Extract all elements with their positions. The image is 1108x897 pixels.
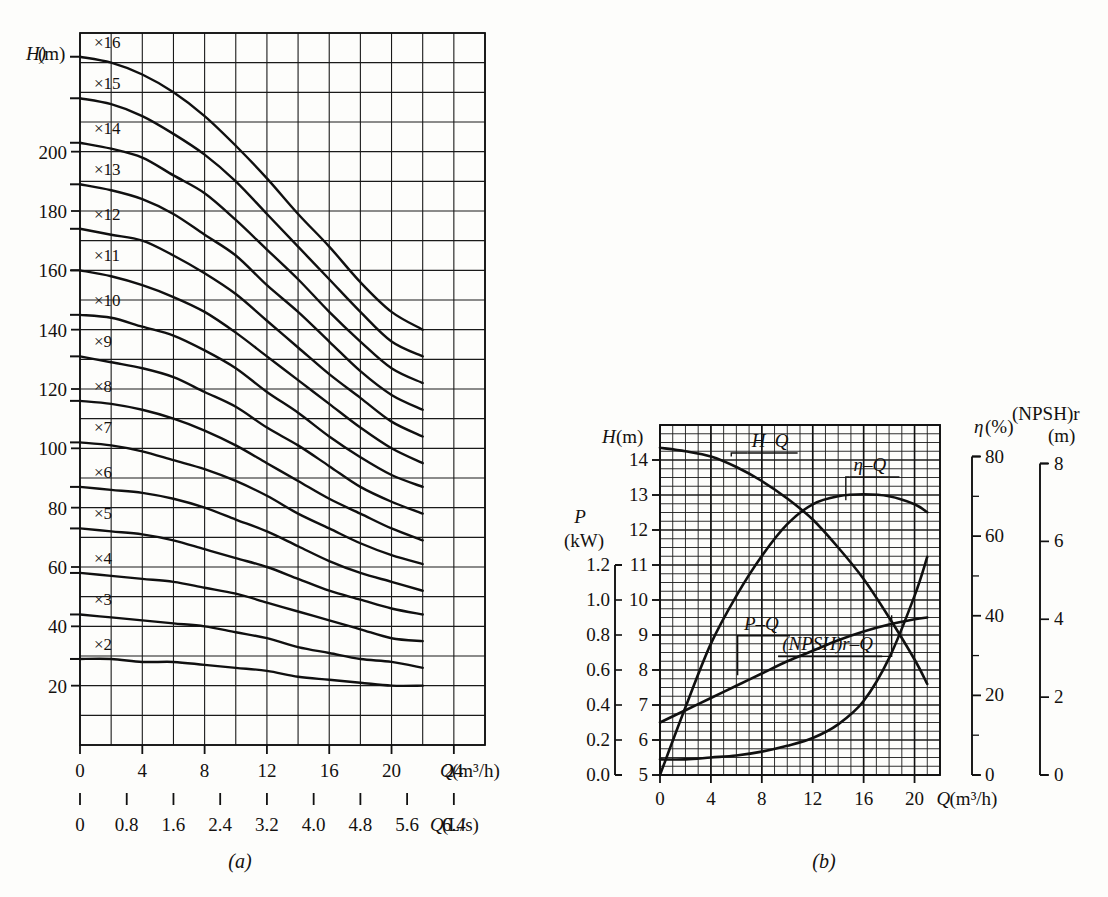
chart-b-npshr-tick-label: 0 [1054, 764, 1064, 785]
chart-b-npshr-tick-label: 2 [1054, 686, 1064, 707]
chart-b-npshr-tick-label: 8 [1054, 453, 1064, 474]
chart-a-xtick-label-secondary: 5.6 [395, 814, 419, 835]
chart-a-xtick-label: 12 [257, 760, 276, 781]
chart-a-x-axis: 04812162024 [75, 745, 464, 781]
chart-a-ytick-label: 120 [39, 379, 68, 400]
chart-b-p-tick-label: 0.8 [586, 624, 610, 645]
chart-b-npshr-axis: 02468 [1040, 453, 1064, 786]
chart-b-xtick-label: 16 [854, 788, 873, 809]
chart-b-xtick-label: 8 [757, 788, 767, 809]
chart-b-figure: 567891011121314H(m)0.00.20.40.60.81.01.2… [540, 0, 1108, 897]
chart-a-xtick-label-secondary: 0.8 [115, 814, 139, 835]
chart-b-etaq-annotation-leader [846, 477, 850, 500]
chart-b-h-tick-label: 9 [639, 624, 649, 645]
chart-a-ytick-label: 180 [39, 201, 68, 222]
chart-b-p-tick-label: 0.4 [586, 694, 610, 715]
chart-a-curve [80, 184, 423, 409]
chart-a-ytick-label: 160 [39, 260, 68, 281]
chart-a-curve [80, 401, 423, 540]
chart-b-p-tick-label: 0.0 [586, 764, 610, 785]
chart-a-curve [80, 659, 423, 686]
chart-a-curves [70, 57, 423, 686]
chart-b-h-axis: 567891011121314 [629, 449, 660, 785]
chart-b-xtick-label: 20 [905, 788, 924, 809]
chart-b-eta-tick-label: 80 [985, 446, 1004, 467]
chart-a-svg: 20406080100120140160180200H)(m)048121620… [0, 0, 540, 897]
chart-a-stage-label: ×3 [94, 590, 112, 609]
chart-b-npshrq-annotation-label: (NPSH)r–Q [782, 633, 873, 655]
chart-b-h-tick-label: 7 [639, 694, 649, 715]
chart-a-curve [80, 98, 423, 356]
chart-a-xtick-label: 0 [75, 760, 85, 781]
chart-b-h-tick-label: 5 [639, 764, 649, 785]
chart-b-h-axis-unit: (m) [616, 426, 643, 448]
chart-a-xtick-label: 8 [200, 760, 210, 781]
chart-a-xtick-label-secondary: 3.2 [255, 814, 279, 835]
chart-a-ytick-label: 40 [48, 616, 67, 637]
chart-b-annotations: H–Qη–QP–Q(NPSH)r–Q [731, 430, 899, 675]
chart-a-stage-label: ×9 [94, 332, 112, 351]
chart-a-ytick-label: 100 [39, 438, 68, 459]
chart-b-svg: 567891011121314H(m)0.00.20.40.60.81.01.2… [540, 0, 1108, 897]
chart-a-xtick-label-secondary: 4.0 [302, 814, 326, 835]
chart-a-curve [80, 143, 423, 383]
chart-a-stage-label: ×14 [94, 119, 121, 138]
chart-a-ylabel-unit: (m) [38, 43, 65, 65]
chart-a-curve [80, 57, 423, 330]
chart-b-eta-tick-label: 40 [985, 605, 1004, 626]
chart-a-xtick-label-secondary: 4.8 [349, 814, 373, 835]
chart-b-xlabel-unit: (m³/h) [950, 788, 998, 810]
chart-b-p-axis-label: P [573, 506, 586, 527]
chart-a-curve [80, 442, 423, 564]
chart-b-eta-axis: 020406080 [972, 446, 1004, 786]
chart-a-curve [80, 487, 423, 591]
chart-a-ytick-label: 200 [39, 142, 68, 163]
chart-b-p-tick-label: 0.6 [586, 659, 610, 680]
chart-b-pq-annotation-leader [738, 636, 740, 676]
chart-b-eta-axis-unit: (%) [985, 416, 1013, 438]
chart-a-stage-label: ×7 [94, 418, 113, 437]
chart-b-eta-tick-label: 60 [985, 525, 1004, 546]
chart-b-h-tick-label: 6 [639, 729, 649, 750]
chart-b-h-tick-label: 8 [639, 659, 649, 680]
chart-b-eta-axis-label: η [974, 416, 983, 437]
chart-b-npshr-tick-label: 4 [1054, 608, 1064, 629]
chart-a-stage-label: ×10 [94, 291, 121, 310]
chart-a-stage-label: ×15 [94, 74, 121, 93]
chart-a-stage-label: ×8 [94, 377, 112, 396]
chart-a-y-axis: 20406080100120140160180200 [39, 142, 81, 697]
chart-a-ytick-label: 60 [48, 557, 67, 578]
chart-a-curve [80, 528, 423, 614]
chart-a-stage-label: ×12 [94, 205, 121, 224]
chart-a-curve [80, 315, 423, 487]
chart-a-stage-label: ×16 [94, 33, 121, 52]
chart-b-pq-annotation-label: P–Q [743, 613, 779, 634]
chart-a-xtick-label-secondary: 0 [75, 814, 85, 835]
chart-b-h-tick-label: 10 [629, 589, 648, 610]
chart-a-stage-label: ×13 [94, 160, 121, 179]
chart-b-hq-annotation-leader [731, 453, 747, 457]
chart-a-stage-label: ×2 [94, 635, 112, 654]
chart-a-xtick-label: 20 [382, 760, 401, 781]
chart-b-h-tick-label: 11 [630, 554, 648, 575]
chart-b-npshr-axis-unit: (m) [1048, 425, 1075, 447]
chart-a-curve [80, 573, 423, 641]
chart-b-h-tick-label: 12 [629, 519, 648, 540]
chart-b-p-tick-label: 0.2 [586, 729, 610, 750]
chart-b-p-axis-unit: (kW) [564, 530, 604, 552]
chart-a-caption: (a) [228, 850, 252, 873]
chart-b-p-tick-label: 1.0 [586, 589, 610, 610]
chart-a-stage-label: ×6 [94, 463, 112, 482]
chart-a-ytick-label: 140 [39, 320, 68, 341]
chart-b-xlabel: Q [937, 788, 951, 809]
chart-b-eta-tick-label: 20 [985, 684, 1004, 705]
chart-b-xtick-label: 0 [655, 788, 665, 809]
chart-a-stage-label: ×11 [94, 246, 120, 265]
chart-b-h-tick-label: 13 [629, 484, 648, 505]
chart-a-xlabel-secondary-unit: (L/s) [442, 814, 479, 836]
chart-a-ytick-label: 80 [48, 498, 67, 519]
chart-b-h-axis-label: H [601, 426, 617, 447]
chart-b-npshr-tick-label: 6 [1054, 530, 1064, 551]
chart-b-xtick-label: 4 [706, 788, 716, 809]
chart-b-hq-annotation-label: H–Q [751, 430, 789, 451]
